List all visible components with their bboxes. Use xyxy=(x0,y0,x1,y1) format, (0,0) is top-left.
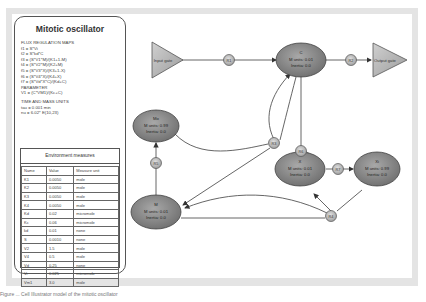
node-name: Mo xyxy=(153,116,159,121)
input-gate: Input gate xyxy=(152,42,183,78)
output-gate-label: Output gate xyxy=(374,58,397,63)
node-units: M units: 0.99 xyxy=(144,123,169,128)
output-gate: Output gate xyxy=(373,43,407,77)
reaction-node-r6[interactable]: R6 xyxy=(296,146,307,157)
reaction-label: R2 xyxy=(349,59,354,63)
node-units: M units: 0.99 xyxy=(365,166,390,171)
reaction-label: R6 xyxy=(299,150,304,154)
reaction-label: R3 xyxy=(272,142,277,146)
node-units: M units: 0.01 xyxy=(289,57,314,62)
reaction-label: R7 xyxy=(336,168,341,172)
input-gate-label: Input gate xyxy=(154,58,173,63)
reaction-node-r2[interactable]: R2 xyxy=(346,55,357,66)
species-node-mo[interactable]: Mo M units: 0.99 Inertia: 0.0 xyxy=(133,110,179,142)
reaction-node-r1[interactable]: R1 xyxy=(224,55,235,66)
reaction-node-r5[interactable]: R5 xyxy=(151,158,162,169)
node-units: M units: 0.01 xyxy=(144,209,169,214)
node-name: X xyxy=(299,159,302,164)
reaction-label: R5 xyxy=(154,162,159,166)
edge-r8-xi xyxy=(337,190,362,211)
reaction-node-r3[interactable]: R3 xyxy=(269,138,280,149)
edge-r3-c xyxy=(269,74,290,143)
reaction-label: R4 xyxy=(329,215,334,219)
node-inertia: Inertia: 0.0 xyxy=(146,129,166,134)
node-inertia: Inertia: 0.0 xyxy=(290,172,310,177)
species-node-c[interactable]: C M units: 0.01 Inertia: 0.0 xyxy=(276,43,326,77)
edge-r8-m xyxy=(185,195,327,213)
edge-mo-r3 xyxy=(175,134,268,151)
species-node-x[interactable]: X M units: 0.01 Inertia: 0.0 xyxy=(275,152,325,186)
edges xyxy=(156,60,371,218)
figure-caption: Figure ... Cell Illustrator model of the… xyxy=(0,291,118,297)
node-inertia: Inertia: 0.0 xyxy=(367,172,387,177)
node-name: C xyxy=(299,50,302,55)
node-name: M xyxy=(154,202,158,207)
reaction-label: R1 xyxy=(227,59,232,63)
reaction-node-r7[interactable]: R7 xyxy=(333,164,344,175)
node-inertia: Inertia: 0.0 xyxy=(146,215,166,220)
node-units: M units: 0.01 xyxy=(288,166,313,171)
species-node-xi[interactable]: Xi M units: 0.99 Inertia: 0.0 xyxy=(354,152,400,186)
species-node-m[interactable]: M M units: 0.01 Inertia: 0.0 xyxy=(131,195,181,229)
reaction-node-r4[interactable]: R4 xyxy=(326,211,337,222)
node-name: Xi xyxy=(375,159,379,164)
petri-net-diagram: Input gate Output gate C M units: 0.01 I… xyxy=(0,0,426,302)
node-inertia: Inertia: 0.0 xyxy=(291,63,311,68)
edge-r3-c2 xyxy=(280,77,296,140)
